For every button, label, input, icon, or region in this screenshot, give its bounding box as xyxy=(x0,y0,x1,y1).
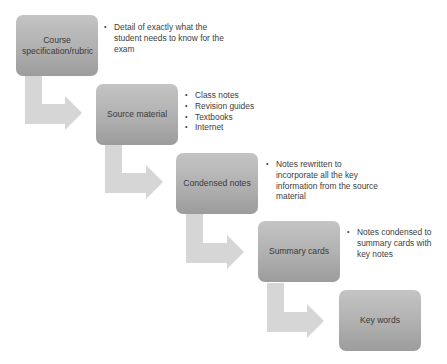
step-box-summary-cards: Summary cards xyxy=(258,221,340,282)
note-item: Revision guides xyxy=(185,101,285,112)
note-item: Detail of exactly what the student needs… xyxy=(104,22,234,54)
step-label: Condensed notes xyxy=(183,178,250,189)
arrow-4 xyxy=(267,283,324,338)
arrow-3 xyxy=(186,214,244,269)
step-notes-course-specification: Detail of exactly what the student needs… xyxy=(104,22,234,54)
step-label: Source material xyxy=(107,109,167,120)
note-item: Notes condensed to summary cards with ke… xyxy=(347,227,445,259)
step-label: Key words xyxy=(360,315,400,326)
step-label: Course specification/rubric xyxy=(22,35,92,57)
note-item: Internet xyxy=(185,122,285,133)
step-notes-summary-cards: Notes condensed to summary cards with ke… xyxy=(347,227,445,259)
step-notes-source-material: Class notes Revision guides Textbooks In… xyxy=(185,90,285,133)
step-box-course-specification: Course specification/rubric xyxy=(16,15,98,76)
step-box-key-words: Key words xyxy=(339,290,421,351)
step-box-condensed-notes: Condensed notes xyxy=(176,153,258,214)
arrow-1 xyxy=(25,76,82,130)
arrow-2 xyxy=(105,145,163,199)
step-label: Summary cards xyxy=(269,246,329,257)
note-item: Notes rewritten to incorporate all the k… xyxy=(266,159,384,202)
note-item: Class notes xyxy=(185,90,285,101)
step-notes-condensed-notes: Notes rewritten to incorporate all the k… xyxy=(266,159,384,202)
step-box-source-material: Source material xyxy=(96,84,178,145)
note-item: Textbooks xyxy=(185,112,285,123)
